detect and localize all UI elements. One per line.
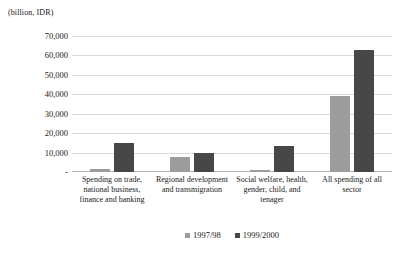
bar [114, 143, 134, 172]
legend-item[interactable]: 1999/2000 [235, 230, 279, 240]
y-tick-label: 10,000 [2, 148, 68, 157]
x-category-label: Regional development and transmigration [152, 175, 232, 205]
plot-area [72, 36, 392, 172]
bar-group [72, 36, 152, 172]
bar [170, 157, 190, 172]
legend-label: 1999/2000 [243, 230, 279, 240]
bar-group [152, 36, 232, 172]
bar [90, 169, 110, 172]
bar [194, 153, 214, 172]
legend-swatch-icon [235, 233, 240, 238]
bar [250, 170, 270, 172]
bar-group [312, 36, 392, 172]
bar-groups [72, 36, 392, 172]
y-tick-label: 30,000 [2, 109, 68, 118]
bar [330, 96, 350, 172]
y-tick-label: 70,000 [2, 32, 68, 41]
legend-item[interactable]: 1997/98 [185, 230, 221, 240]
x-category-label: Spending on trade, national business, fi… [72, 175, 152, 205]
y-tick-label: 40,000 [2, 90, 68, 99]
x-category-label: All spending of all sector [312, 175, 392, 205]
y-axis-unit-caption: (billion, IDR) [8, 8, 53, 17]
y-axis-tick-labels: 70,00060,00050,00040,00030,00020,00010,0… [0, 36, 68, 172]
y-tick-label: 60,000 [2, 51, 68, 60]
legend-label: 1997/98 [193, 230, 221, 240]
bar-chart: (billion, IDR) 70,00060,00050,00040,0003… [0, 0, 405, 263]
x-category-label: Social welfare, health, gender, child, a… [232, 175, 312, 205]
x-axis-category-labels: Spending on trade, national business, fi… [72, 175, 392, 205]
bar-group [232, 36, 312, 172]
bar [274, 146, 294, 172]
bar [354, 50, 374, 172]
y-tick-label: - [2, 168, 68, 177]
y-tick-label: 50,000 [2, 70, 68, 79]
y-tick-label: 20,000 [2, 129, 68, 138]
chart-legend: 1997/981999/2000 [72, 230, 392, 240]
legend-swatch-icon [185, 233, 190, 238]
